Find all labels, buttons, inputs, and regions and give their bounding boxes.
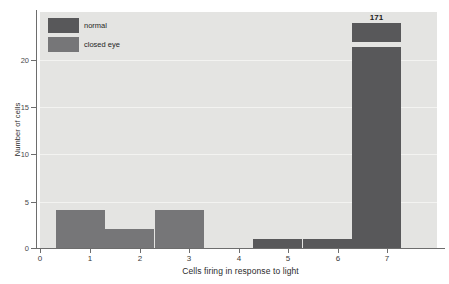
x-tick-label-1: 1: [80, 255, 100, 263]
y-axis-line: [36, 10, 37, 249]
chart-figure: 171 normal closed eye 0 5 10 15 20 0 1 2…: [0, 0, 449, 284]
y-tick-20: [31, 60, 36, 61]
bar-category-3: [155, 210, 204, 248]
x-tick-label-7: 7: [377, 255, 397, 263]
x-tick-6: [338, 249, 339, 253]
x-tick-0: [40, 249, 41, 253]
legend-item-normal: normal: [48, 18, 120, 33]
bar-category-6: [303, 239, 352, 248]
legend-label-closed-eye: closed eye: [84, 41, 120, 49]
y-tick-0: [31, 248, 36, 249]
x-tick-3: [189, 249, 190, 253]
y-tick-label-0: 0: [5, 245, 29, 253]
x-tick-4: [239, 249, 240, 253]
y-tick-label-20: 20: [5, 57, 29, 65]
x-tick-7: [387, 249, 388, 253]
y-tick-5: [31, 202, 36, 203]
x-axis-title: Cells firing in response to light: [36, 266, 445, 276]
bar-category-5: [253, 239, 302, 248]
bar-value-label-171: 171: [352, 14, 401, 22]
bar-category-2: [105, 229, 154, 248]
legend-swatch-closed-eye: [48, 37, 79, 52]
legend-swatch-normal: [48, 18, 79, 33]
x-tick-label-3: 3: [179, 255, 199, 263]
x-tick-label-4: 4: [229, 255, 249, 263]
y-tick-10: [31, 154, 36, 155]
x-axis-line: [36, 248, 445, 249]
bar-category-7-upper: [352, 23, 401, 42]
bar-category-7-lower: [352, 47, 401, 248]
x-tick-1: [90, 249, 91, 253]
x-tick-2: [140, 249, 141, 253]
x-tick-label-5: 5: [278, 255, 298, 263]
x-tick-label-2: 2: [130, 255, 150, 263]
y-axis-title: Number of cells: [13, 70, 22, 190]
x-tick-label-0: 0: [30, 255, 50, 263]
x-tick-5: [288, 249, 289, 253]
y-tick-label-5: 5: [5, 199, 29, 207]
chart-legend: normal closed eye: [48, 18, 120, 52]
legend-item-closed-eye: closed eye: [48, 37, 120, 52]
y-tick-15: [31, 107, 36, 108]
x-tick-label-6: 6: [328, 255, 348, 263]
bar-category-1: [56, 210, 105, 248]
legend-label-normal: normal: [84, 22, 107, 30]
